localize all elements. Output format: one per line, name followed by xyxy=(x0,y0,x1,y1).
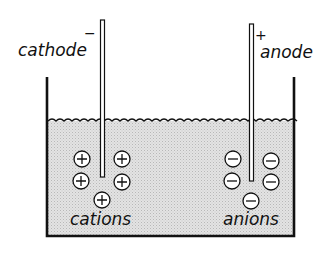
anion-icon xyxy=(263,153,279,169)
anions-label: anions xyxy=(223,209,279,229)
anion-icon xyxy=(243,193,259,209)
anode-electrode xyxy=(250,24,254,181)
cation-icon xyxy=(94,192,110,208)
anion-icon xyxy=(225,151,241,167)
anode-sign: + xyxy=(255,27,267,43)
anion-icon xyxy=(224,173,240,189)
liquid-surface xyxy=(48,119,297,121)
cation-icon xyxy=(114,151,130,167)
anode-label: anode xyxy=(260,42,313,62)
cathode-electrode xyxy=(101,20,105,177)
cathode-sign: − xyxy=(84,25,96,41)
cations-label: cations xyxy=(70,209,131,229)
electrolysis-diagram: − cathode + anode cations xyxy=(0,0,333,253)
cation-icon xyxy=(74,151,90,167)
cation-icon xyxy=(114,174,130,190)
cation-icon xyxy=(73,173,89,189)
anion-icon xyxy=(263,174,279,190)
cathode-label: cathode xyxy=(18,40,87,60)
